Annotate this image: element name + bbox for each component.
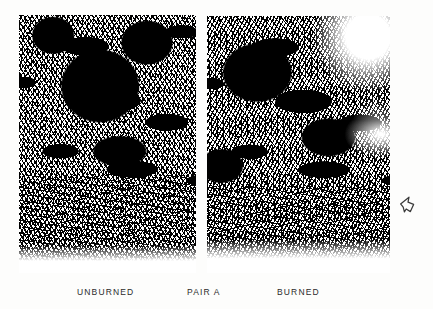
arrow-outline-icon (398, 195, 418, 217)
caption-unburned: UNBURNED (77, 286, 134, 298)
photo-bottom-fade (19, 232, 196, 273)
caption-row: UNBURNED PAIR A BURNED (0, 285, 433, 299)
caption-pair-label: PAIR A (187, 286, 221, 298)
figure-plate: UNBURNED PAIR A BURNED (0, 0, 433, 309)
photo-bottom-fade (207, 224, 390, 273)
caption-burned: BURNED (277, 286, 320, 298)
photo-burned (207, 16, 390, 273)
photo-unburned (19, 15, 196, 273)
